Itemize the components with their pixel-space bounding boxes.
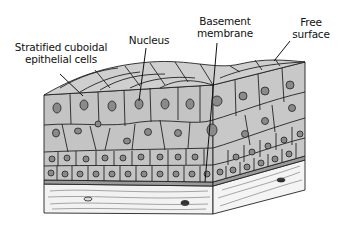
pointer-free-surface [274, 41, 290, 61]
epithelium-illustration [0, 0, 343, 233]
